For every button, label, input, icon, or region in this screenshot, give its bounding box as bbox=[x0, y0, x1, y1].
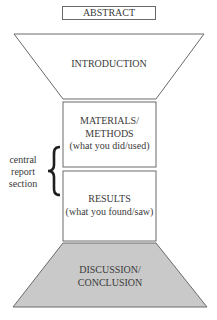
introduction-label: INTRODUCTION bbox=[14, 58, 204, 71]
side-line3: section bbox=[2, 178, 44, 190]
discussion-line2: CONCLUSION bbox=[13, 277, 207, 290]
materials-methods-label: MATERIALS/ METHODS (what you did/used) bbox=[63, 115, 156, 153]
discussion-label: DISCUSSION/ CONCLUSION bbox=[13, 264, 207, 289]
side-line2: report bbox=[2, 166, 44, 178]
materials-line1: MATERIALS/ bbox=[63, 115, 156, 128]
discussion-line1: DISCUSSION/ bbox=[13, 264, 207, 277]
abstract-box: ABSTRACT bbox=[62, 6, 156, 20]
curly-brace-icon bbox=[48, 147, 60, 195]
results-line1: RESULTS bbox=[63, 193, 156, 206]
central-report-section-label: central report section bbox=[2, 154, 44, 190]
results-label: RESULTS (what you found/saw) bbox=[63, 193, 156, 218]
side-line1: central bbox=[2, 154, 44, 166]
results-line2: (what you found/saw) bbox=[63, 206, 156, 219]
abstract-label: ABSTRACT bbox=[63, 7, 155, 19]
materials-line2: METHODS bbox=[63, 128, 156, 141]
materials-line3: (what you did/used) bbox=[63, 140, 156, 153]
